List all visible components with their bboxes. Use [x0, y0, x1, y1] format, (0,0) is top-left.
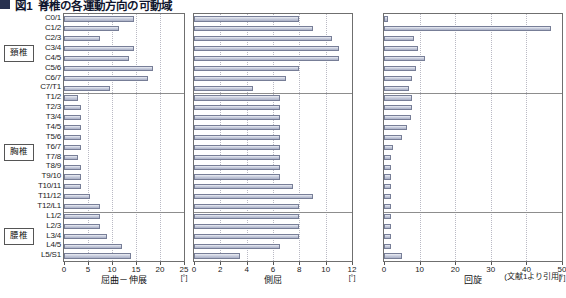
chart-panel-rotation	[383, 13, 563, 262]
bar	[64, 194, 90, 199]
bar	[194, 214, 299, 219]
x-axis-flexion-extension: 0510152025[°]屈曲－伸展	[63, 262, 185, 288]
group-separator	[64, 93, 184, 94]
bar	[384, 194, 391, 199]
level-label: T5/6	[46, 132, 61, 141]
bar	[64, 115, 81, 120]
bar	[64, 234, 107, 239]
bar	[384, 66, 416, 71]
axis-title: 側屈	[193, 273, 353, 286]
bar	[194, 174, 280, 179]
figure-body: C0/1C1/2C2/3C3/4C4/5C5/6C6/7C7/T1T1/2T2/…	[0, 13, 565, 281]
bar	[384, 155, 391, 160]
bar	[194, 125, 280, 130]
bar	[384, 184, 391, 189]
bar	[194, 95, 280, 100]
bar	[384, 244, 391, 249]
plot-area	[384, 14, 562, 261]
bar	[384, 86, 409, 91]
gridline	[160, 14, 161, 261]
bar	[64, 56, 129, 61]
level-label: L5/S1	[41, 250, 61, 259]
bar	[64, 95, 78, 100]
level-label: T8/9	[46, 161, 61, 170]
level-label: C0/1	[45, 13, 61, 22]
bar	[194, 105, 280, 110]
bar	[384, 135, 402, 140]
chart-panel-flexion-extension	[63, 13, 185, 262]
group-separator	[384, 212, 562, 213]
gridline	[420, 14, 421, 261]
bar	[194, 204, 299, 209]
level-label: C2/3	[45, 33, 61, 42]
bar	[194, 56, 339, 61]
bar	[194, 253, 240, 258]
level-label-column: C0/1C1/2C2/3C3/4C4/5C5/6C6/7C7/T1T1/2T2/…	[0, 13, 63, 262]
figure-number: 図1	[15, 0, 33, 13]
gridline	[491, 14, 492, 261]
bar	[64, 66, 153, 71]
level-label: L3/4	[46, 231, 61, 240]
bar	[384, 76, 412, 81]
gridline	[136, 14, 137, 261]
level-label: T7/8	[46, 152, 61, 161]
bar	[194, 155, 280, 160]
bar	[384, 105, 412, 110]
bar	[64, 253, 131, 258]
level-label: L4/5	[46, 240, 61, 249]
level-label: T2/3	[46, 102, 61, 111]
bar	[384, 204, 391, 209]
level-label: C4/5	[45, 53, 61, 62]
bar	[384, 16, 388, 21]
gridline	[455, 14, 456, 261]
bar	[64, 184, 81, 189]
bar	[194, 115, 280, 120]
bar	[64, 244, 122, 249]
bar	[384, 165, 391, 170]
bar	[194, 244, 280, 249]
bar	[384, 234, 391, 239]
bar	[64, 204, 100, 209]
bar	[64, 145, 81, 150]
level-label: T6/7	[46, 142, 61, 151]
bar	[384, 46, 418, 51]
level-label: T12/L1	[37, 201, 61, 210]
bar	[64, 76, 148, 81]
bar	[64, 46, 134, 51]
x-axis-lateral-bending: 024681012[°]側屈	[193, 262, 353, 288]
bar	[384, 56, 425, 61]
bar	[64, 155, 78, 160]
bar	[64, 224, 100, 229]
axis-title: 屈曲－伸展	[63, 273, 185, 286]
bar	[384, 36, 414, 41]
group-separator	[384, 93, 562, 94]
group-separator	[194, 93, 352, 94]
plot-area	[64, 14, 184, 261]
bar	[194, 165, 280, 170]
plot-area	[194, 14, 352, 261]
group-separator	[194, 212, 352, 213]
bar	[384, 26, 551, 31]
level-label: T9/10	[42, 171, 61, 180]
bar	[194, 135, 280, 140]
level-label: L2/3	[46, 221, 61, 230]
spine-group-label: 胸椎	[4, 144, 34, 161]
bar	[194, 184, 293, 189]
bar	[64, 16, 134, 21]
level-label: C5/6	[45, 63, 61, 72]
chart-panel-lateral-bending	[193, 13, 353, 262]
bar	[194, 46, 339, 51]
bar	[194, 36, 332, 41]
bar	[384, 95, 412, 100]
bar	[64, 36, 100, 41]
bar	[64, 165, 81, 170]
group-separator	[64, 212, 184, 213]
bar	[194, 224, 299, 229]
bar	[64, 125, 81, 130]
bar	[384, 145, 393, 150]
level-label: C7/T1	[40, 82, 61, 91]
bar	[384, 174, 391, 179]
gridline	[526, 14, 527, 261]
level-label: L1/2	[46, 211, 61, 220]
bar	[194, 86, 253, 91]
